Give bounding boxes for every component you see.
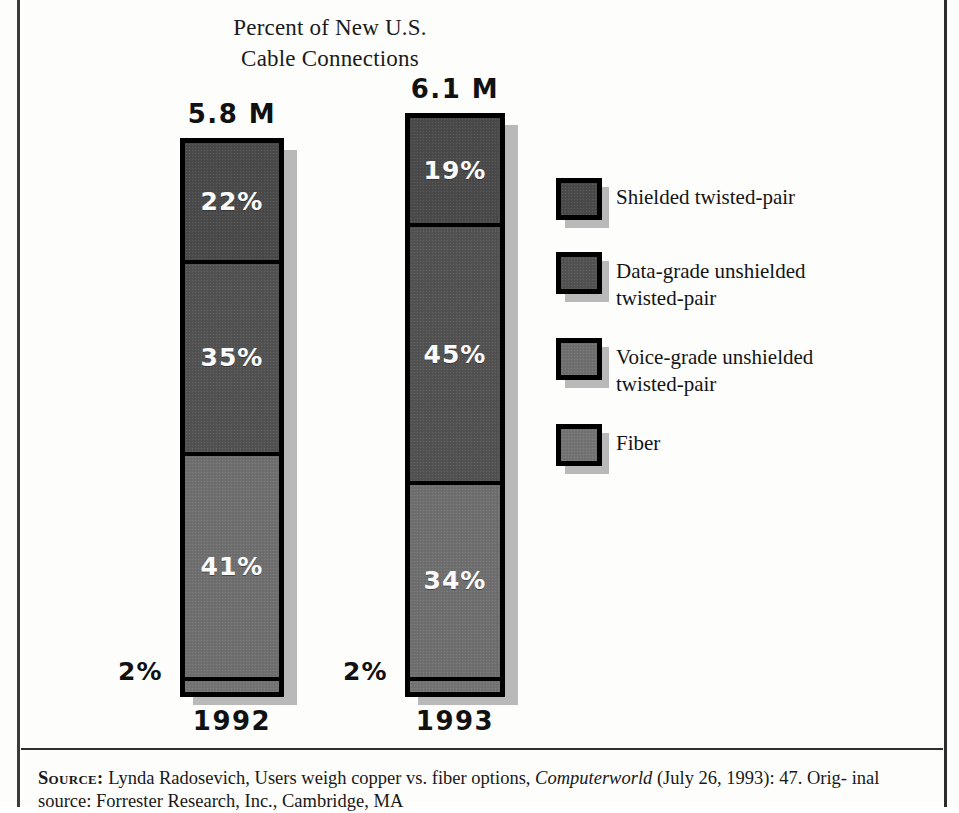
bar-total-label-1993: 6.1 M: [388, 74, 522, 104]
bar-stack-1993[interactable]: 19% 45% 34%: [405, 113, 505, 697]
source-divider-rule: [21, 748, 943, 750]
bar-segment-1992-shielded[interactable]: 22%: [185, 143, 279, 264]
chart-plot-area: 5.8 M 22% 35% 41% 2% 1992 6.1 M 19% 45%: [0, 0, 959, 745]
legend-label-voice-grade: Voice-grade unshielded twisted-pair: [612, 338, 813, 398]
source-text-before-italic: Lynda Radosevich, Users weigh copper vs.…: [104, 768, 536, 788]
bar-segment-label-1993-voice-grade: 34%: [424, 566, 487, 595]
source-publication-title: Computerworld: [535, 768, 652, 788]
bar-year-label-1992: 1992: [165, 706, 299, 736]
legend-label-voice-grade-line-1: Voice-grade unshielded: [616, 344, 813, 371]
source-text-after-italic: (July 26, 1993): 47. Orig-: [652, 768, 847, 788]
legend-label-fiber: Fiber: [612, 424, 660, 457]
bar-segment-1992-fiber[interactable]: [185, 681, 279, 692]
bar-segment-1992-data-grade[interactable]: 35%: [185, 264, 279, 456]
legend-swatch-icon-shielded: [556, 178, 602, 220]
legend-swatch-icon-fiber: [556, 424, 602, 466]
legend-label-shielded-line-1: Shielded twisted-pair: [616, 184, 795, 211]
legend-swatch-icon-voice-grade: [556, 338, 602, 380]
source-kicker: Source:: [38, 768, 104, 788]
bar-segment-label-1993-fiber: 2%: [343, 657, 387, 686]
legend-item-shielded[interactable]: Shielded twisted-pair: [556, 178, 926, 226]
legend-swatch-icon-data-grade: [556, 252, 602, 294]
bar-segment-1993-shielded[interactable]: 19%: [410, 118, 500, 227]
legend-label-data-grade: Data-grade unshielded twisted-pair: [612, 252, 806, 312]
bar-segment-1993-data-grade[interactable]: 45%: [410, 227, 500, 485]
bar-segment-1993-voice-grade[interactable]: 34%: [410, 485, 500, 680]
legend-label-fiber-line-1: Fiber: [616, 430, 660, 457]
chart-legend: Shielded twisted-pair Data-grade unshiel…: [556, 178, 926, 498]
legend-item-voice-grade[interactable]: Voice-grade unshielded twisted-pair: [556, 338, 926, 398]
bar-segment-1993-fiber[interactable]: [410, 681, 500, 692]
bar-segment-label-1992-shielded: 22%: [201, 187, 264, 216]
legend-item-fiber[interactable]: Fiber: [556, 424, 926, 472]
legend-swatch-wrap-shielded: [556, 178, 612, 226]
bar-segment-label-1993-shielded: 19%: [424, 156, 487, 185]
legend-label-data-grade-line-2: twisted-pair: [616, 285, 806, 312]
source-note: Source: Lynda Radosevich, Users weigh co…: [38, 767, 928, 813]
bar-segment-label-1992-fiber: 2%: [118, 657, 162, 686]
bar-segment-label-1992-data-grade: 35%: [201, 343, 264, 372]
legend-swatch-wrap-fiber: [556, 424, 612, 472]
bar-year-label-1993: 1993: [388, 706, 522, 736]
legend-label-shielded: Shielded twisted-pair: [612, 178, 795, 211]
bar-segment-label-1992-voice-grade: 41%: [201, 552, 264, 581]
legend-swatch-wrap-data-grade: [556, 252, 612, 300]
legend-item-data-grade[interactable]: Data-grade unshielded twisted-pair: [556, 252, 926, 312]
legend-label-data-grade-line-1: Data-grade unshielded: [616, 258, 806, 285]
bar-total-label-1992: 5.8 M: [165, 99, 299, 129]
legend-label-voice-grade-line-2: twisted-pair: [616, 371, 813, 398]
bar-segment-label-1993-data-grade: 45%: [424, 340, 487, 369]
legend-swatch-wrap-voice-grade: [556, 338, 612, 386]
bar-segment-1992-voice-grade[interactable]: 41%: [185, 456, 279, 681]
bar-stack-1992[interactable]: 22% 35% 41%: [180, 138, 284, 697]
